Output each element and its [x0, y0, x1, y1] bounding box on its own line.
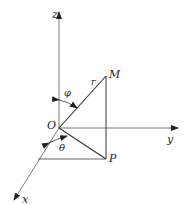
x-axis: [14, 128, 59, 200]
projection-line-op: [59, 128, 106, 159]
point-m-label: M: [109, 69, 120, 80]
origin-label: O: [47, 120, 56, 131]
phi-label: φ: [64, 88, 71, 98]
x-axis-label: x: [22, 194, 28, 205]
radius-label: r: [91, 78, 95, 87]
theta-label: θ: [59, 143, 65, 153]
y-axis-label: y: [167, 134, 173, 145]
phi-angle-arc: [59, 100, 77, 108]
z-axis-label: z: [52, 9, 58, 20]
point-p-label: P: [109, 153, 116, 164]
spherical-coordinate-diagram: [0, 0, 191, 205]
